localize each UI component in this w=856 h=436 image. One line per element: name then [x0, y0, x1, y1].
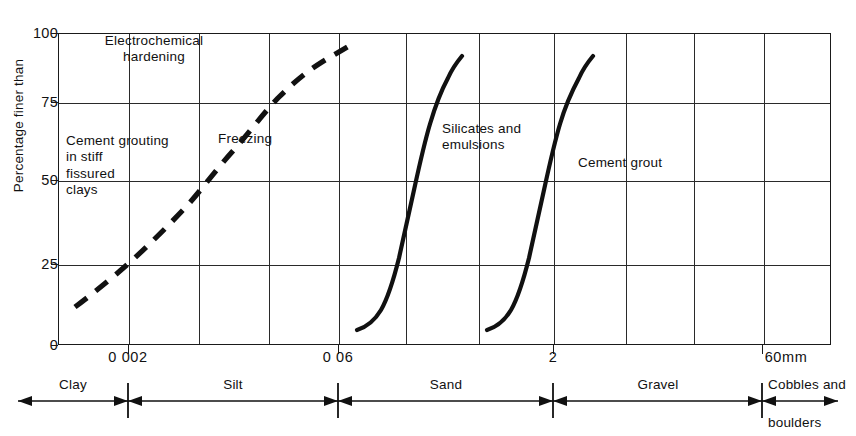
x-tick-label-60mm: 60mm	[765, 349, 808, 365]
classification-label-cobbles: Cobbles and	[768, 377, 846, 392]
gridline-horizontal	[59, 103, 830, 104]
classification-arrow	[324, 396, 338, 406]
classification-arrow	[762, 396, 776, 406]
classification-scale	[0, 368, 856, 436]
x-tick-label-0002: 0 002	[108, 349, 147, 365]
y-axis-title: Percentage finer than	[11, 16, 26, 236]
gridline-vertical	[479, 34, 480, 344]
classification-label-clay: Clay	[59, 377, 87, 392]
classification-label-sand: Sand	[430, 377, 462, 392]
classification-label-silt: Silt	[223, 377, 243, 392]
classification-label-gravel: Gravel	[638, 377, 679, 392]
x-tick-label-2: 2	[549, 349, 558, 365]
gridline-horizontal	[59, 265, 830, 266]
classification-arrow	[128, 396, 142, 406]
gridline-vertical	[764, 34, 765, 344]
plot-area	[58, 33, 831, 345]
annotation-electrochemical-hardening: Electrochemical hardening	[90, 33, 218, 66]
classification-arrow	[553, 396, 567, 406]
annotation-silicates-emulsions: Silicates and emulsions	[442, 121, 521, 154]
annotation-cement-grouting-clays: Cement grouting in stiff fissured clays	[66, 133, 169, 199]
gridline-vertical	[339, 34, 340, 344]
classification-label-boulders: boulders	[768, 415, 821, 430]
gridline-vertical	[199, 34, 200, 344]
annotation-cement-grout: Cement grout	[578, 155, 662, 171]
soil-classification-bar: Clay Silt Sand Gravel Cobbles and boulde…	[0, 368, 856, 436]
classification-arrow	[748, 396, 762, 406]
y-tick-mark	[51, 264, 58, 265]
y-tick-mark	[51, 33, 58, 34]
gridline-vertical	[694, 34, 695, 344]
y-tick-mark	[51, 345, 58, 346]
grading-curve-figure: Percentage finer than 100 75 50 25 0 0 0…	[0, 0, 856, 436]
classification-arrow	[338, 396, 352, 406]
gridline-vertical	[626, 34, 627, 344]
classification-arrow-left	[18, 396, 32, 406]
classification-arrow-right	[824, 396, 838, 406]
gridline-vertical	[269, 34, 270, 344]
x-tick-label-006: 0 06	[323, 349, 354, 365]
y-tick-mark	[51, 180, 58, 181]
gridline-horizontal	[59, 181, 830, 182]
y-tick-mark	[51, 102, 58, 103]
annotation-freezing: Freezing	[218, 131, 272, 147]
x-tick-mark	[762, 345, 763, 354]
classification-arrow	[114, 396, 128, 406]
gridline-vertical	[406, 34, 407, 344]
classification-arrow	[539, 396, 553, 406]
gridline-vertical	[554, 34, 555, 344]
